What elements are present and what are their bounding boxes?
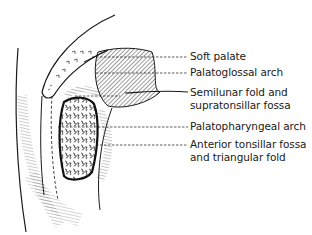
label-text: Palatopharyngeal arch [190, 120, 306, 132]
label-text: Semilunar fold and [190, 86, 291, 99]
label-text: and triangular fold [190, 151, 306, 164]
illustration [0, 0, 312, 235]
label-soft-palate: Soft palate [190, 50, 246, 63]
label-palatopharyngeal-arch: Palatopharyngeal arch [190, 120, 306, 133]
label-text: Palatoglossal arch [190, 66, 283, 78]
tonsil-shape [60, 89, 109, 180]
label-text: Soft palate [190, 50, 246, 62]
label-anterior-tonsillar-fossa: Anterior tonsillar fossa and triangular … [190, 138, 306, 164]
label-text: supratonsillar fossa [190, 99, 291, 112]
label-semilunar-fold: Semilunar fold and supratonsillar fossa [190, 86, 291, 112]
tonsil-anatomy-diagram: Soft palate Palatoglossal arch Semilunar… [0, 0, 312, 235]
pillar-outline [51, 96, 58, 200]
label-palatoglossal-arch: Palatoglossal arch [190, 66, 283, 79]
label-text: Anterior tonsillar fossa [190, 138, 306, 151]
